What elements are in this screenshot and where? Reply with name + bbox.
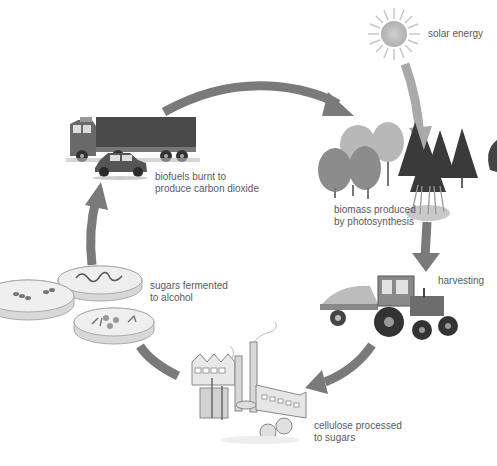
sun-icon	[368, 8, 420, 60]
arrow-harvest-to-factory	[305, 345, 372, 394]
diagram-graphics	[0, 0, 497, 466]
label-fermented: sugars fermented to alcohol	[150, 280, 228, 304]
arrow-vehicles-to-biomass	[164, 86, 354, 116]
label-harvesting: harvesting	[438, 275, 484, 287]
label-cellulose: cellulose processed to sugars	[314, 420, 402, 444]
label-biomass: biomass produced by photosynthesis	[334, 204, 416, 228]
petri-dishes-icon	[0, 266, 154, 344]
arrow-factory-to-ferment	[140, 346, 178, 376]
factory-icon	[192, 322, 306, 444]
arrow-biomass-to-harvest	[412, 222, 440, 272]
arrow-ferment-to-vehicles	[85, 182, 108, 265]
cropped-shape	[488, 140, 497, 172]
biofuel-cycle-diagram: solar energy biomass produced by photosy…	[0, 0, 497, 466]
label-biofuels-burnt: biofuels burnt to produce carbon dioxide	[155, 171, 259, 195]
label-solar-energy: solar energy	[428, 28, 483, 40]
